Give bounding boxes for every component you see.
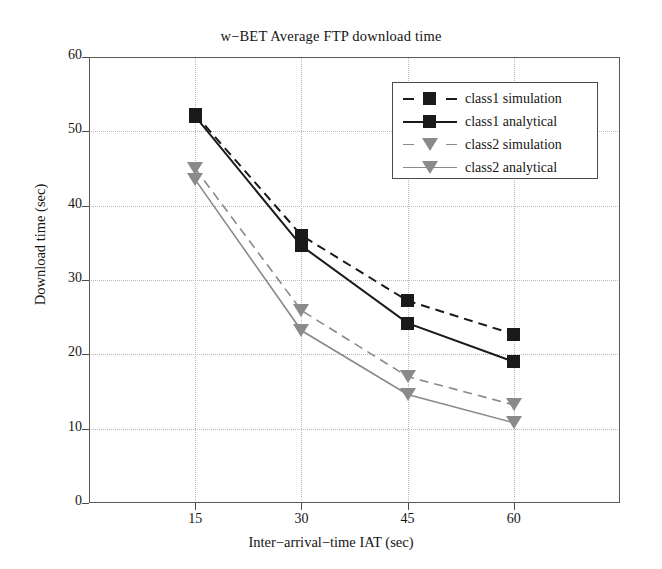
x-tick-label: 45 — [378, 511, 438, 527]
legend-square-marker-icon — [423, 115, 436, 128]
y-tick-label: 60 — [38, 47, 82, 63]
chart-title: w−BET Average FTP download time — [0, 28, 662, 45]
legend-line-sample — [446, 98, 457, 100]
legend-entry[interactable]: class2 simulation — [393, 133, 599, 157]
x-tick-mark — [195, 503, 196, 510]
y-tick-mark — [82, 280, 89, 281]
y-tick-mark — [82, 429, 89, 430]
legend-label: class1 simulation — [465, 91, 562, 107]
legend-line-sample — [403, 98, 414, 100]
y-tick-mark — [82, 503, 89, 504]
legend-label: class2 simulation — [465, 137, 562, 153]
x-tick-mark — [514, 503, 515, 510]
chart-figure: w−BET Average FTP download time Download… — [0, 0, 662, 569]
y-tick-label: 0 — [38, 493, 82, 509]
chart-legend: class1 simulationclass1 analyticalclass2… — [392, 82, 598, 179]
legend-line-sample — [403, 144, 414, 145]
legend-entry[interactable]: class1 simulation — [393, 87, 599, 111]
legend-sample — [401, 87, 463, 111]
legend-label: class1 analytical — [465, 114, 557, 130]
y-tick-label: 40 — [38, 196, 82, 212]
y-tick-mark — [82, 131, 89, 132]
x-tick-mark — [301, 503, 302, 510]
x-tick-mark — [408, 503, 409, 510]
legend-square-marker-icon — [423, 92, 436, 105]
y-axis-label-holder: Download time (sec) — [0, 0, 1, 1]
legend-sample — [401, 133, 463, 157]
legend-sample — [401, 156, 463, 180]
legend-label: class2 analytical — [465, 160, 557, 176]
legend-line-sample — [446, 144, 457, 145]
x-tick-label: 15 — [165, 511, 225, 527]
legend-entry[interactable]: class1 analytical — [393, 110, 599, 134]
x-axis-label: Inter−arrival−time IAT (sec) — [0, 534, 662, 551]
x-tick-label: 60 — [484, 511, 544, 527]
y-tick-mark — [82, 206, 89, 207]
y-tick-label: 10 — [38, 419, 82, 435]
x-tick-label: 30 — [271, 511, 331, 527]
legend-entry[interactable]: class2 analytical — [393, 156, 599, 180]
legend-triangle-marker-icon — [422, 161, 438, 174]
y-tick-label: 50 — [38, 121, 82, 137]
y-tick-mark — [82, 354, 89, 355]
y-tick-mark — [82, 57, 89, 58]
legend-triangle-marker-icon — [422, 138, 438, 151]
y-tick-label: 20 — [38, 344, 82, 360]
y-tick-label: 30 — [38, 270, 82, 286]
y-axis-label: Download time (sec) — [32, 145, 49, 345]
legend-sample — [401, 110, 463, 134]
